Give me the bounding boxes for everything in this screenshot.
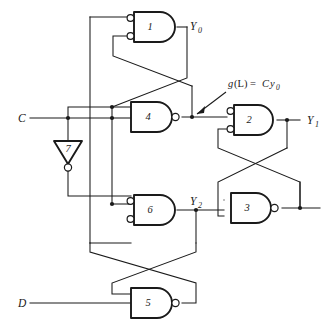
junction-dot xyxy=(190,115,194,119)
gate-3-output-bubble xyxy=(271,204,278,211)
annotation-g: g xyxy=(228,78,233,89)
wire-inverter-out-to-gate6 xyxy=(68,171,131,196)
output-label-y0-base: Y xyxy=(190,20,198,32)
junction-dot xyxy=(110,116,114,120)
output-label-y2-base: Y xyxy=(190,195,198,207)
gate-3-body xyxy=(231,193,271,223)
gate-2-input-bubble-bottom xyxy=(227,126,234,133)
gate-6-body xyxy=(134,195,175,225)
input-label-c: C xyxy=(18,112,26,124)
gate-5-output-bubble xyxy=(172,299,179,306)
junction-dot xyxy=(66,116,70,120)
annotation-arrow-head xyxy=(197,106,205,114)
junction-dot xyxy=(298,206,302,210)
output-label-y1: Y 1 xyxy=(307,114,319,129)
junction-dot xyxy=(285,118,289,122)
wire-gate1-in-bottom-cross xyxy=(113,36,192,86)
gate-7-number: 7 xyxy=(65,143,71,154)
gate-5-body xyxy=(131,288,172,318)
gate-7-inverter[interactable]: 7 xyxy=(54,141,82,171)
gate-4-number: 4 xyxy=(145,111,151,122)
annotation-y-sub: 0 xyxy=(276,83,280,92)
annotation-c: C xyxy=(262,78,270,89)
junction-dot xyxy=(110,202,114,206)
gate-4-output-bubble xyxy=(172,113,179,120)
annotation-equals: = xyxy=(250,78,256,89)
output-label-y0-sub: 0 xyxy=(198,26,202,35)
gate-1[interactable]: 1 xyxy=(127,12,175,42)
gate-4-body xyxy=(131,102,172,132)
wire-y2-cross-to-gate5-in-top xyxy=(112,243,196,294)
output-label-y1-sub: 1 xyxy=(315,120,319,129)
junction-dot xyxy=(110,105,114,109)
output-label-y2: Y 2 xyxy=(190,195,202,210)
gate-2-body xyxy=(234,105,273,135)
output-label-y0: Y 0 xyxy=(190,20,202,35)
gate-1-body xyxy=(134,12,175,42)
gate-1-number: 1 xyxy=(147,21,152,32)
logic-circuit-diagram: 1 4 6 5 2 xyxy=(0,0,336,330)
gate-2-number: 2 xyxy=(246,114,252,125)
gate-3[interactable]: 3 xyxy=(231,193,278,223)
annotation-arrow xyxy=(197,92,226,114)
gate-2[interactable]: 2 xyxy=(227,105,273,135)
gate-4[interactable]: 4 xyxy=(131,102,179,132)
gate-5[interactable]: 5 xyxy=(131,288,179,318)
gate-6-number: 6 xyxy=(147,204,153,215)
annotation-paren-l: (L) xyxy=(234,78,248,90)
gate-6[interactable]: 6 xyxy=(127,195,175,225)
output-label-y1-base: Y xyxy=(307,114,315,126)
circuit-canvas: 1 4 6 5 2 xyxy=(0,0,336,330)
gate-1-input-bubble-top xyxy=(127,15,134,22)
wire-network xyxy=(30,17,320,303)
signal-labels: C D Y 0 Y 1 Y 2 g (L) = xyxy=(17,20,319,309)
gate-6-input-bubble-top xyxy=(127,198,134,205)
gate-1-input-bubble-bottom xyxy=(127,33,134,40)
gate-5-number: 5 xyxy=(145,297,150,308)
output-label-y2-sub: 2 xyxy=(198,201,202,210)
input-label-d: D xyxy=(17,297,27,309)
annotation-y: y xyxy=(269,78,275,89)
gate-3-number: 3 xyxy=(243,202,249,213)
annotation-g-of-l: g (L) = C y 0 xyxy=(228,78,280,92)
gate-7-output-bubble xyxy=(64,164,71,171)
gate-2-input-bubble-top xyxy=(227,108,234,115)
gate-6-input-bubble-bottom xyxy=(127,216,134,223)
